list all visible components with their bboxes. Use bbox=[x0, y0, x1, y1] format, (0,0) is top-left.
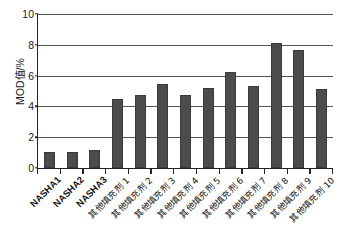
x-tick-mark bbox=[287, 169, 288, 174]
y-tick-label: 4 bbox=[28, 100, 34, 112]
x-tick-mark bbox=[60, 169, 61, 174]
bar-chart: MOD值/% 0246810 NASHA1NASHA2NASHA3其他填充剂 1… bbox=[0, 0, 350, 249]
y-axis-title: MOD值/% bbox=[12, 32, 27, 132]
x-tick-mark bbox=[82, 169, 83, 174]
bar-slot bbox=[129, 14, 152, 168]
x-tick-mark bbox=[219, 169, 220, 174]
bar-slot bbox=[61, 14, 84, 168]
x-tick-mark bbox=[309, 169, 310, 174]
y-tick-label: 10 bbox=[22, 8, 34, 20]
bar[interactable] bbox=[180, 95, 191, 168]
bar-slot bbox=[106, 14, 129, 168]
x-tick-mark bbox=[332, 169, 333, 174]
bar-slot bbox=[38, 14, 61, 168]
bar[interactable] bbox=[89, 150, 100, 168]
x-axis-labels: NASHA1NASHA2NASHA3其他填充剂 1其他填充剂 2其他填充剂 3其… bbox=[37, 174, 333, 248]
x-tick-mark bbox=[128, 169, 129, 174]
x-tick-mark bbox=[241, 169, 242, 174]
bar-slot bbox=[174, 14, 197, 168]
x-tick-mark bbox=[105, 169, 106, 174]
x-tick-mark bbox=[264, 169, 265, 174]
bar-slot bbox=[288, 14, 311, 168]
bar-slot bbox=[310, 14, 333, 168]
x-tick-mark bbox=[196, 169, 197, 174]
bars-container bbox=[38, 14, 333, 168]
bar-slot bbox=[265, 14, 288, 168]
bar-slot bbox=[197, 14, 220, 168]
y-tick-label: 2 bbox=[28, 131, 34, 143]
bar[interactable] bbox=[271, 43, 282, 168]
bar[interactable] bbox=[135, 95, 146, 168]
bar[interactable] bbox=[248, 86, 259, 168]
plot-area: 0246810 bbox=[37, 14, 333, 169]
y-tick-label: 8 bbox=[28, 39, 34, 51]
bar-slot bbox=[220, 14, 243, 168]
bar[interactable] bbox=[67, 152, 78, 168]
bar-slot bbox=[83, 14, 106, 168]
bar[interactable] bbox=[203, 88, 214, 168]
bar[interactable] bbox=[316, 89, 327, 168]
y-tick-label: 0 bbox=[28, 162, 34, 174]
bar[interactable] bbox=[44, 152, 55, 168]
x-tick-mark bbox=[173, 169, 174, 174]
bar-slot bbox=[151, 14, 174, 168]
bar[interactable] bbox=[293, 50, 304, 168]
y-tick-label: 6 bbox=[28, 70, 34, 82]
bar-slot bbox=[242, 14, 265, 168]
x-tick-mark bbox=[37, 169, 38, 174]
x-tick-mark bbox=[150, 169, 151, 174]
bar[interactable] bbox=[157, 84, 168, 168]
bar[interactable] bbox=[225, 72, 236, 168]
bar[interactable] bbox=[112, 99, 123, 168]
